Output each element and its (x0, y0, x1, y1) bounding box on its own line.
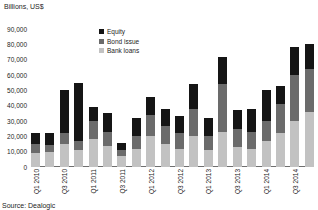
bar-segment-bank-loans (247, 149, 256, 167)
x-axis-tick (132, 168, 141, 210)
bar-segment-bank-loans (276, 133, 285, 167)
plot-area (31, 29, 314, 167)
bar-segment-bank-loans (74, 150, 83, 167)
x-axis-tick-label: Q1 2011 (90, 169, 97, 193)
bar-segment-bank-loans (204, 150, 213, 167)
bar-stack[interactable] (262, 29, 271, 167)
x-axis-tick-label: Q3 2010 (61, 169, 68, 194)
x-axis-tick: Q3 2013 (233, 168, 242, 210)
bar-segment-equity (204, 118, 213, 136)
x-axis-tick: Q3 2011 (117, 168, 126, 210)
bar-segment-bank-loans (103, 146, 112, 167)
bar-segment-bond-issue (60, 133, 69, 144)
bar-segment-equity (89, 107, 98, 121)
bar-segment-equity (175, 116, 184, 133)
bar-segment-bond-issue (74, 141, 83, 150)
y-axis-tick-label: 70,000 (7, 56, 27, 63)
legend-item-label: Bond issue (107, 37, 139, 47)
bar-segment-bond-issue (189, 109, 198, 137)
bar-stack[interactable] (31, 29, 40, 167)
bar-stack[interactable] (60, 29, 69, 167)
legend-item[interactable]: Equity (99, 27, 139, 37)
y-axis-tick-label: 40,000 (7, 102, 27, 109)
bar-stack[interactable] (218, 29, 227, 167)
bar-stack[interactable] (204, 29, 213, 167)
y-axis-tick-label: 0 (23, 164, 27, 171)
x-axis-tick (103, 168, 112, 210)
y-axis-tick-label: 30,000 (7, 118, 27, 125)
bar-segment-bank-loans (117, 156, 126, 167)
y-axis-tick-label: 20,000 (7, 133, 27, 140)
bar-stack[interactable] (276, 29, 285, 167)
y-axis-tick-label: 50,000 (7, 87, 27, 94)
bar-segment-bond-issue (161, 126, 170, 144)
bar-segment-bond-issue (89, 121, 98, 139)
bar-stack[interactable] (45, 29, 54, 167)
bar-segment-bond-issue (305, 69, 314, 112)
bar-stack[interactable] (146, 29, 155, 167)
bar-segment-equity (117, 143, 126, 151)
bar-segment-bank-loans (45, 152, 54, 167)
x-axis-tick: Q3 2014 (290, 168, 299, 210)
chart-legend: EquityBond issueBank loans (99, 27, 139, 56)
x-axis-tick: Q1 2012 (146, 168, 155, 210)
bar-segment-bond-issue (276, 104, 285, 133)
bar-segment-equity (103, 113, 112, 131)
bar-segment-bond-issue (31, 144, 40, 153)
bar-segment-bond-issue (247, 132, 256, 149)
x-axis-tick (276, 168, 285, 210)
bar-segment-equity (290, 47, 299, 75)
bar-segment-bank-loans (218, 132, 227, 167)
bar-segment-bank-loans (189, 136, 198, 167)
legend-item-label: Equity (107, 27, 125, 37)
legend-swatch-icon (99, 48, 104, 53)
bar-segment-equity (218, 57, 227, 85)
x-axis-tick: Q1 2011 (89, 168, 98, 210)
x-axis-tick-label: Q1 2013 (205, 169, 212, 194)
y-axis-tick-label: 90,000 (7, 26, 27, 33)
legend-item[interactable]: Bank loans (99, 46, 139, 56)
bar-stack[interactable] (290, 29, 299, 167)
bar-segment-bond-issue (175, 133, 184, 148)
legend-swatch-icon (99, 29, 104, 34)
bar-segment-equity (189, 84, 198, 109)
bar-segment-bond-issue (146, 115, 155, 136)
bar-stack[interactable] (247, 29, 256, 167)
bar-segment-bond-issue (262, 121, 271, 141)
y-axis-tick-label: 10,000 (7, 148, 27, 155)
x-axis-tick-label: Q1 2010 (32, 169, 39, 194)
bar-stack[interactable] (189, 29, 198, 167)
legend-item-label: Bank loans (107, 46, 139, 56)
bar-segment-bank-loans (89, 139, 98, 167)
bar-segment-bond-issue (233, 129, 242, 147)
x-axis-tick-label: Q3 2011 (118, 169, 125, 193)
bar-segment-equity (31, 133, 40, 144)
x-axis-tick (161, 168, 170, 210)
legend-swatch-icon (99, 39, 104, 44)
bar-stack[interactable] (233, 29, 242, 167)
x-axis-tick: Q1 2014 (262, 168, 271, 210)
legend-item[interactable]: Bond issue (99, 37, 139, 47)
bar-segment-equity (74, 83, 83, 141)
bar-segment-bond-issue (103, 132, 112, 146)
x-axis-tick: Q3 2010 (60, 168, 69, 210)
bar-segment-bond-issue (290, 75, 299, 121)
bar-segment-bank-loans (161, 144, 170, 167)
bar-segment-equity (161, 109, 170, 126)
x-axis-tick-label: Q3 2014 (291, 169, 298, 194)
bar-segment-equity (60, 90, 69, 133)
bar-segment-bank-loans (175, 149, 184, 167)
y-axis-tick-label: 60,000 (7, 72, 27, 79)
bar-segment-bank-loans (305, 112, 314, 167)
bar-stack[interactable] (89, 29, 98, 167)
bar-series-group (31, 29, 314, 167)
bar-stack[interactable] (74, 29, 83, 167)
chart-container: Billions, US$ 90,00080,00070,00060,00050… (0, 0, 318, 210)
x-axis-tick-label: Q3 2012 (176, 169, 183, 194)
bar-stack[interactable] (175, 29, 184, 167)
bar-stack[interactable] (305, 29, 314, 167)
bar-stack[interactable] (161, 29, 170, 167)
x-axis-tick (189, 168, 198, 210)
x-axis-tick (305, 168, 314, 210)
bar-segment-bank-loans (31, 153, 40, 167)
